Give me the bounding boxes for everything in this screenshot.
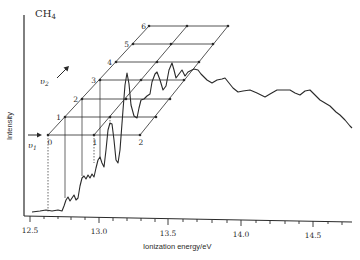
svg-text:14.5: 14.5 bbox=[305, 231, 322, 240]
v1-arrow-icon bbox=[28, 133, 42, 138]
spectrum-trace bbox=[32, 63, 352, 212]
svg-text:1: 1 bbox=[56, 113, 61, 122]
x-tick-labels: 12.5 13.0 13.5 14.0 14.5 bbox=[22, 226, 322, 240]
svg-text:3: 3 bbox=[91, 76, 96, 85]
v2-row-labels: 1 2 3 4 5 6 bbox=[56, 22, 146, 122]
x-axis bbox=[24, 216, 352, 222]
v1-label: υ1 bbox=[28, 141, 37, 151]
v2-label: υ2 bbox=[40, 77, 49, 87]
v2-arrow-icon bbox=[57, 66, 69, 78]
svg-text:13.0: 13.0 bbox=[91, 227, 108, 236]
molecule-label: CH4 bbox=[35, 8, 56, 21]
svg-text:12.5: 12.5 bbox=[22, 226, 39, 235]
svg-text:2: 2 bbox=[73, 95, 78, 104]
svg-text:14.0: 14.0 bbox=[233, 230, 250, 239]
svg-text:2: 2 bbox=[139, 138, 144, 147]
x-axis-label: Ionization energy/eV bbox=[143, 242, 211, 251]
svg-text:13.5: 13.5 bbox=[160, 229, 177, 238]
svg-text:1: 1 bbox=[93, 138, 98, 147]
grid-points bbox=[47, 25, 230, 137]
y-axis-label: Intensity bbox=[5, 112, 14, 140]
svg-text:0: 0 bbox=[48, 138, 53, 147]
vibrational-grid bbox=[48, 26, 228, 135]
svg-text:6: 6 bbox=[141, 22, 146, 31]
v1-col-labels: 0 1 2 bbox=[48, 138, 144, 147]
svg-text:5: 5 bbox=[124, 40, 129, 49]
svg-text:4: 4 bbox=[107, 58, 112, 67]
photoelectron-spectrum-figure: CH4 Intensity 12.5 13.0 13.5 14.0 bbox=[0, 0, 360, 260]
